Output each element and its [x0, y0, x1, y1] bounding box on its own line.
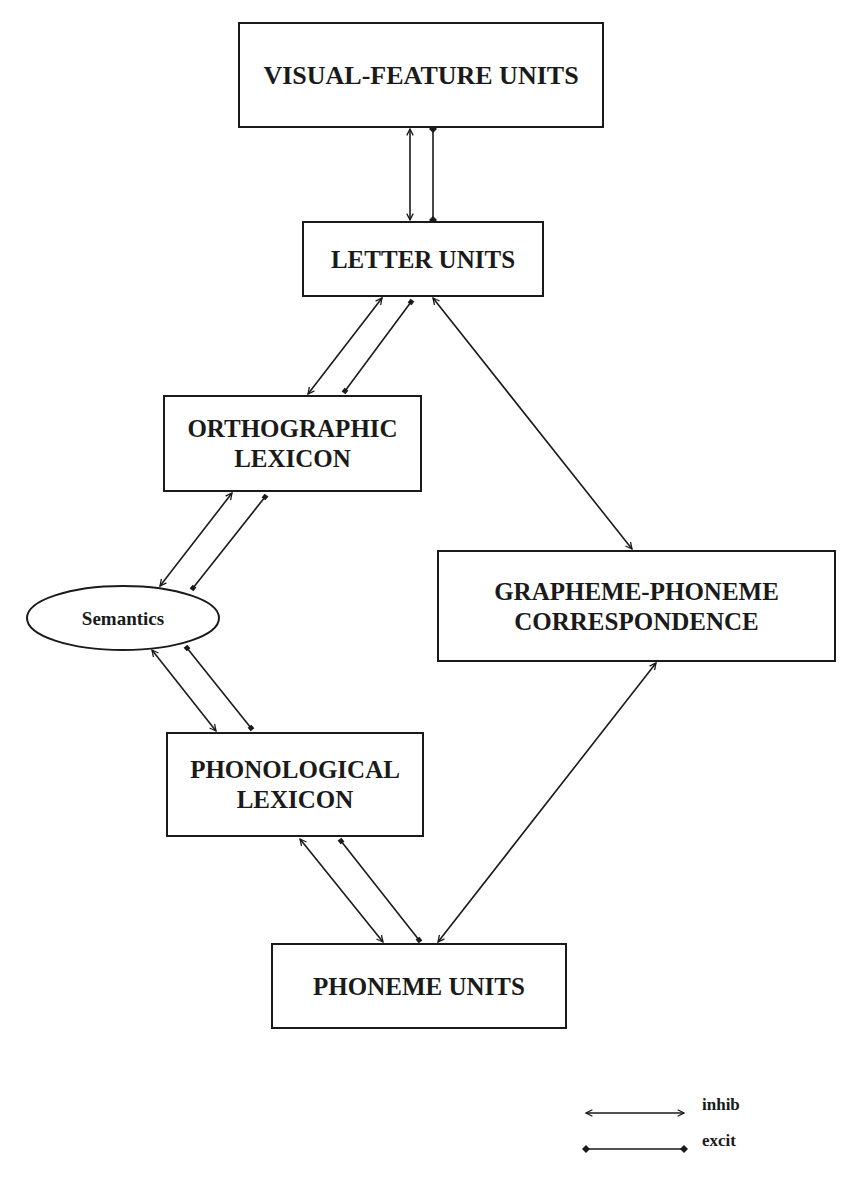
gpc-label: GRAPHEME-PHONEME — [494, 578, 779, 605]
phon-label: PHONOLOGICAL — [190, 756, 400, 783]
node-gpc: GRAPHEME-PHONEMECORRESPONDENCE — [438, 551, 835, 661]
node-phoneme: PHONEME UNITS — [272, 944, 566, 1028]
visual-label: VISUAL-FEATURE UNITS — [263, 61, 578, 90]
gpc-label: CORRESPONDENCE — [514, 608, 758, 635]
excit-connector-ortho-semantics — [193, 497, 265, 588]
nodes: VISUAL-FEATURE UNITSLETTER UNITSORTHOGRA… — [27, 23, 835, 1028]
legend: inhibexcit — [586, 1095, 740, 1150]
legend-item-excit: excit — [586, 1131, 736, 1150]
letter-label: LETTER UNITS — [331, 246, 515, 273]
node-ortho: ORTHOGRAPHICLEXICON — [164, 396, 421, 491]
gpc-box — [438, 551, 835, 661]
inhib-arrow-ortho-semantics — [160, 493, 232, 586]
legend-inhib-label: inhib — [702, 1095, 740, 1114]
ortho-label: LEXICON — [234, 445, 351, 472]
node-phon: PHONOLOGICALLEXICON — [167, 733, 423, 836]
inhib-arrow-semantics-phon — [152, 650, 216, 731]
phoneme-label: PHONEME UNITS — [313, 973, 525, 1000]
inhib-arrow-letter-gpc — [433, 298, 632, 549]
node-letter: LETTER UNITS — [303, 222, 543, 296]
inhib-arrow-gpc-phoneme — [438, 663, 656, 942]
ortho-label: ORTHOGRAPHIC — [187, 415, 397, 442]
node-semantics: Semantics — [27, 586, 219, 650]
phon-box — [167, 733, 423, 836]
semantics-label: Semantics — [82, 608, 164, 629]
legend-excit-label: excit — [702, 1131, 736, 1150]
ortho-box — [164, 396, 421, 491]
reading-model-diagram: VISUAL-FEATURE UNITSLETTER UNITSORTHOGRA… — [0, 0, 851, 1177]
inhib-arrow-phon-phoneme — [300, 839, 383, 942]
phon-label: LEXICON — [237, 786, 354, 813]
excit-connector-letter-ortho — [345, 302, 411, 391]
legend-item-inhib: inhib — [586, 1095, 740, 1114]
excit-connector-semantics-phon — [187, 648, 251, 728]
node-visual: VISUAL-FEATURE UNITS — [239, 23, 603, 127]
inhib-arrow-letter-ortho — [308, 298, 382, 394]
excit-connector-phon-phoneme — [341, 841, 419, 940]
